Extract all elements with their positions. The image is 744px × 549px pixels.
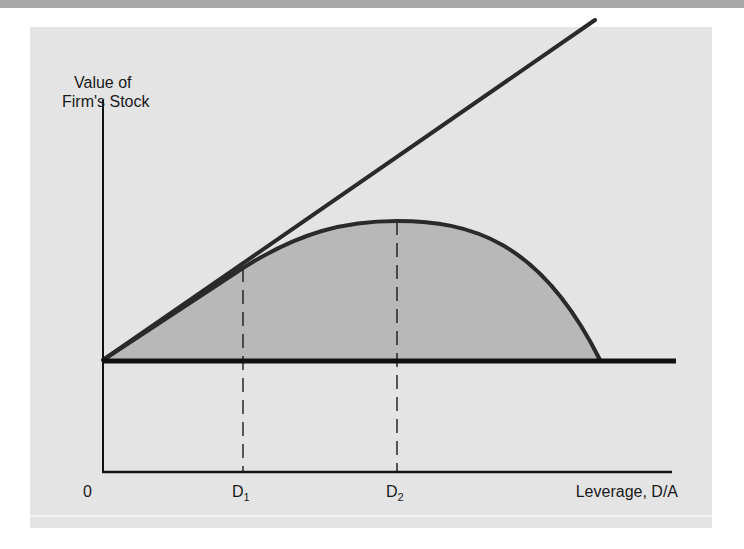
y-axis-label-line2: Firm's Stock — [62, 92, 150, 111]
tick-label-d2-main: D — [386, 483, 398, 500]
origin-label: 0 — [83, 483, 92, 501]
x-axis-label: Leverage, D/A — [576, 483, 678, 501]
tick-label-d1-main: D — [232, 483, 244, 500]
tick-label-d1: D1 — [232, 483, 250, 503]
tick-label-d2: D2 — [386, 483, 404, 503]
y-axis-label: Value of Firm's Stock — [62, 73, 150, 111]
tick-label-d2-sub: 2 — [398, 491, 404, 503]
shaded-area-under-curve — [103, 221, 600, 360]
tick-label-d1-sub: 1 — [244, 491, 250, 503]
y-axis-label-line1: Value of — [62, 73, 150, 92]
